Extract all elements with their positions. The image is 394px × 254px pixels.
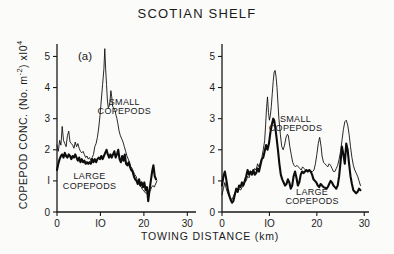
series-annotation-line: COPEPODS [98,106,151,116]
x-axis-tick-label: 30 [359,218,371,229]
series-annotation: LARGECOPEPODS [63,171,116,191]
y-axis-tick-label: 3 [44,113,50,124]
series-large-copepods [57,150,156,201]
y-axis-title-mid: ) xI0 [17,45,29,68]
series-annotation: SMALLCOPEPODS [98,97,151,117]
x-axis-title: TOWING DISTANCE (km) [60,230,360,242]
panel-right: 0I23450IO2030SMALLCOPEPODSLARGECOPEPODS [209,44,370,229]
y-axis-tick-label: 3 [209,113,215,124]
x-axis-tick-label: 0 [54,218,60,229]
y-axis-tick-label: 2 [44,144,50,155]
x-axis-tick-label: 20 [311,218,323,229]
series-annotation-line: COPEPODS [285,196,338,206]
series-small-copepods [57,49,157,194]
series-annotation: SMALLCOPEPODS [269,114,322,133]
x-axis-tick-label: 20 [138,218,150,229]
series-annotation-line: LARGE [296,187,328,197]
y-axis-tick-label: I [47,175,50,186]
figure-title: SCOTIAN SHELF [0,6,394,21]
series-annotation-line: LARGE [74,171,106,181]
y-axis-title-exponent-1: -2 [15,68,24,76]
x-axis-tick-label: IO [95,218,106,229]
x-axis-tick-label: IO [264,218,275,229]
series-small-copepods [222,70,360,199]
y-axis-tick-label: 0 [44,207,50,218]
y-axis-title-exponent-2: 4 [15,40,24,45]
x-axis-tick-label: 30 [182,218,194,229]
series-annotation-line: COPEPODS [63,181,116,191]
y-axis-tick-label: 0 [209,207,215,218]
y-axis-tick-label: 4 [209,82,215,93]
y-axis-tick-label: I [212,175,215,186]
y-axis-tick-label: 5 [209,51,215,62]
series-annotation-line: SMALL [109,97,140,107]
y-axis-title-main: COPEPOD CONC. (No. m [17,76,29,210]
panel-left: 0I23450IO2030(a)SMALLCOPEPODSLARGECOPEPO… [44,44,196,229]
x-axis-tick-label: 0 [219,218,225,229]
series-annotation-line: COPEPODS [269,123,322,133]
figure-canvas: SCOTIAN SHELF COPEPOD CONC. (No. m-2) xI… [0,0,394,254]
panel-tag-label: (a) [78,50,92,62]
y-axis-tick-label: 5 [44,51,50,62]
y-axis-title: COPEPOD CONC. (No. m-2) xI04 [15,30,29,220]
plot-area: 0I23450IO2030(a)SMALLCOPEPODSLARGECOPEPO… [0,0,394,254]
y-axis-tick-label: 2 [209,144,215,155]
series-annotation: LARGECOPEPODS [285,187,338,207]
series-annotation-line: SMALL [280,114,311,124]
y-axis-tick-label: 4 [44,82,50,93]
